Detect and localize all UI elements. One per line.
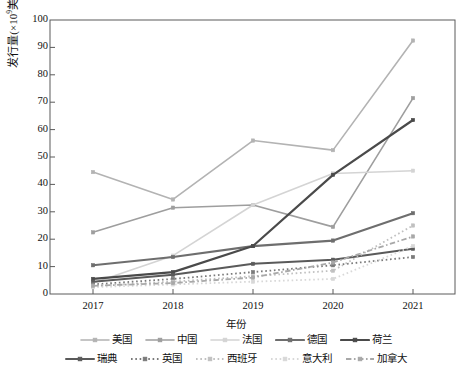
legend-row-1: 美国中国法国德国荷兰 [0, 330, 471, 349]
legend-swatch-德国 [275, 334, 305, 346]
data-point [171, 198, 174, 201]
data-point [171, 255, 174, 258]
x-tick-2017: 2017 [63, 300, 123, 311]
data-point [331, 148, 334, 151]
x-tick-2018: 2018 [143, 300, 203, 311]
data-point [331, 239, 334, 242]
data-point [331, 173, 334, 176]
x-axis-title: 年份 [0, 316, 471, 331]
legend-item-法国[interactable]: 法国 [210, 334, 262, 346]
data-point [411, 118, 414, 121]
figure-caption [0, 363, 471, 375]
legend-label-德国: 德国 [307, 334, 327, 345]
data-point [251, 280, 254, 283]
data-point [251, 203, 254, 206]
line-chart: 发行量(×109美元) 0102030405060708090100 20172… [0, 0, 471, 376]
series-德国 [91, 211, 414, 266]
series-line-德国 [93, 213, 413, 265]
data-point [411, 235, 414, 238]
data-point [331, 277, 334, 280]
data-point [411, 224, 414, 227]
series-中国 [91, 96, 414, 234]
data-point [91, 231, 94, 234]
data-point [411, 244, 414, 247]
x-tick-2020: 2020 [303, 300, 363, 311]
data-point [91, 264, 94, 267]
legend-swatch-法国 [210, 334, 240, 346]
data-point [411, 169, 414, 172]
data-point [411, 211, 414, 214]
x-tick-2021: 2021 [383, 300, 443, 311]
legend-swatch-美国 [80, 334, 110, 346]
series-line-中国 [93, 98, 413, 232]
series-荷兰 [91, 118, 414, 280]
plot-frame [50, 20, 455, 294]
legend-label-美国: 美国 [112, 334, 132, 345]
data-point [171, 281, 174, 284]
legend-label-法国: 法国 [242, 334, 262, 345]
legend-swatch-中国 [145, 334, 175, 346]
x-tick-2019: 2019 [223, 300, 283, 311]
data-point [91, 170, 94, 173]
series-美国 [91, 39, 414, 201]
series-line-法国 [93, 171, 413, 283]
legend-swatch-荷兰 [340, 334, 370, 346]
legend-label-荷兰: 荷兰 [372, 334, 392, 345]
data-point [411, 255, 414, 258]
data-point [331, 269, 334, 272]
data-point [251, 244, 254, 247]
legend-item-中国[interactable]: 中国 [145, 334, 197, 346]
data-point [251, 270, 254, 273]
data-point [251, 139, 254, 142]
legend-item-德国[interactable]: 德国 [275, 334, 327, 346]
data-point [251, 276, 254, 279]
data-point [411, 39, 414, 42]
data-point [251, 262, 254, 265]
legend-label-中国: 中国 [177, 334, 197, 345]
legend-item-荷兰[interactable]: 荷兰 [340, 334, 392, 346]
data-point [171, 273, 174, 276]
series-法国 [91, 169, 414, 285]
data-point [331, 261, 334, 264]
data-point [91, 284, 94, 287]
data-point [331, 225, 334, 228]
legend-item-美国[interactable]: 美国 [80, 334, 132, 346]
data-point [171, 206, 174, 209]
data-point [411, 96, 414, 99]
